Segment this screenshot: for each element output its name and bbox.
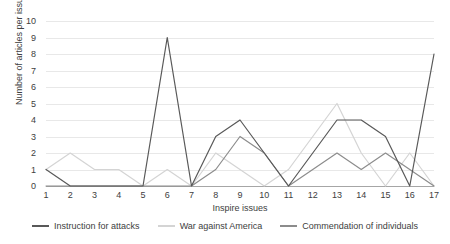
- x-tick-label: 9: [237, 189, 242, 201]
- series-lines: [46, 21, 434, 186]
- x-tick-label: 11: [284, 189, 293, 201]
- y-tick-label: 4: [31, 116, 36, 125]
- x-tick-label: 8: [213, 189, 218, 201]
- x-tick-label: 7: [189, 189, 194, 201]
- series-line: [46, 104, 434, 187]
- y-axis-tick-labels: 012345678910: [0, 21, 40, 186]
- x-tick-label: 1: [43, 189, 48, 201]
- y-tick-label: 1: [31, 165, 36, 174]
- x-tick-label: 6: [165, 189, 170, 201]
- series-line: [46, 137, 434, 187]
- y-tick-label: 9: [31, 33, 36, 42]
- y-tick-label: 0: [31, 182, 36, 191]
- chart-legend: Instruction for attacksWar against Ameri…: [0, 221, 450, 231]
- x-tick-label: 17: [429, 189, 439, 201]
- y-tick-label: 10: [26, 17, 36, 26]
- legend-item[interactable]: Instruction for attacks: [32, 221, 140, 231]
- x-axis-title: Inspire issues: [46, 203, 434, 213]
- x-tick-label: 14: [356, 189, 366, 201]
- y-tick-label: 2: [31, 149, 36, 158]
- x-tick-label: 5: [140, 189, 145, 201]
- line-chart: Number of articles per issue 01234567891…: [0, 0, 450, 244]
- legend-swatch-icon: [158, 225, 175, 227]
- y-tick-label: 7: [31, 66, 36, 75]
- x-tick-label: 13: [332, 189, 342, 201]
- legend-item[interactable]: War against America: [158, 221, 263, 231]
- y-tick-label: 6: [31, 83, 36, 92]
- x-tick-label: 16: [405, 189, 415, 201]
- legend-label: Instruction for attacks: [54, 221, 140, 231]
- x-axis-tick-labels: 1234567891011121314151617: [46, 189, 434, 203]
- x-tick-label: 4: [116, 189, 121, 201]
- y-tick-label: 5: [31, 99, 36, 108]
- legend-label: Commendation of individuals: [302, 221, 418, 231]
- x-tick-label: 12: [308, 189, 318, 201]
- legend-label: War against America: [180, 221, 263, 231]
- legend-swatch-icon: [32, 225, 49, 227]
- y-tick-label: 3: [31, 132, 36, 141]
- x-tick-label: 15: [380, 189, 390, 201]
- legend-item[interactable]: Commendation of individuals: [280, 221, 418, 231]
- legend-swatch-icon: [280, 225, 297, 227]
- plot-area: [46, 21, 434, 186]
- y-tick-label: 8: [31, 50, 36, 59]
- x-tick-label: 10: [259, 189, 269, 201]
- x-tick-label: 3: [92, 189, 97, 201]
- series-line: [46, 38, 434, 187]
- x-tick-label: 2: [68, 189, 73, 201]
